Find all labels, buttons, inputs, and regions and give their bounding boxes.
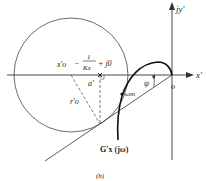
caption: (b) bbox=[96, 172, 105, 180]
y-axis-label: jy′ bbox=[175, 4, 185, 14]
curve-label: G′x (jω) bbox=[100, 145, 129, 154]
psi-label: ψ bbox=[144, 79, 150, 88]
center-num: 1 bbox=[87, 53, 91, 61]
origin-label: o bbox=[171, 82, 175, 91]
a-prime-label: a′ bbox=[88, 79, 94, 88]
center-label: x′o bbox=[56, 60, 66, 69]
omega-m-label: ωm bbox=[125, 90, 135, 98]
x-axis-arrow-icon bbox=[186, 72, 194, 78]
radius-label: r′o bbox=[70, 97, 79, 106]
center-suffix: + j0 bbox=[98, 59, 112, 68]
center-den: Kx bbox=[82, 64, 92, 72]
omega-m-point bbox=[120, 92, 123, 95]
x-axis-label: x′ bbox=[195, 70, 203, 80]
y-axis-arrow-icon bbox=[169, 2, 175, 10]
nichols-circle-diagram: jy′ x′ o x′o − 1 Kx + j0 a′ r′o ωm ψ G′x… bbox=[0, 0, 206, 181]
g-curve bbox=[118, 62, 172, 140]
center-minus: − bbox=[74, 59, 79, 68]
